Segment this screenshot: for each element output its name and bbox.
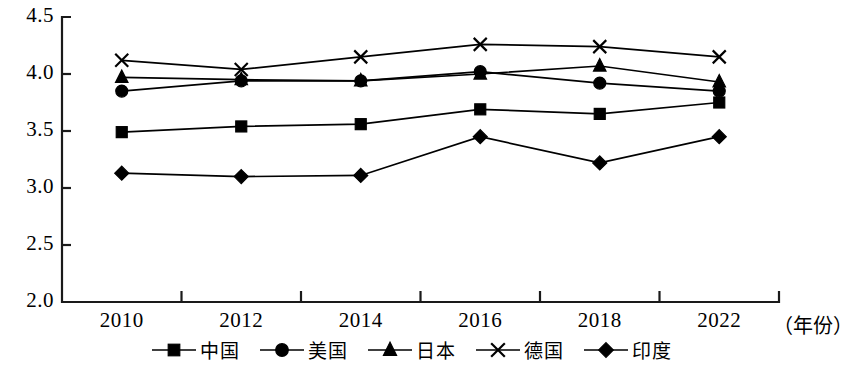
- data-point-日本-2018: [594, 59, 607, 71]
- y-tick-marks: [62, 74, 71, 245]
- x-axis-label-2018: 2018: [555, 308, 645, 333]
- x-axis-label-2016: 2016: [435, 308, 525, 333]
- legend-label-印度: 印度: [632, 336, 671, 363]
- data-point-日本-2010: [116, 70, 129, 82]
- y-axis-label-3.0: 3.0: [2, 174, 54, 199]
- legend-marker-diamond-icon: [583, 339, 629, 361]
- data-point-印度-2018: [593, 156, 607, 170]
- legend-label-日本: 日本: [416, 336, 455, 363]
- x-axis-label-2014: 2014: [316, 308, 406, 333]
- data-point-印度-2016: [473, 130, 487, 144]
- legend-label-中国: 中国: [200, 336, 239, 363]
- y-axis-label-4.0: 4.0: [2, 60, 54, 85]
- legend-item-印度[interactable]: 印度: [583, 336, 671, 363]
- legend-marker-triangle-icon: [367, 339, 413, 361]
- y-axis-label-3.5: 3.5: [2, 117, 54, 142]
- y-axis-label-4.5: 4.5: [2, 3, 54, 28]
- legend-item-美国[interactable]: 美国: [259, 336, 347, 363]
- data-point-中国-2022: [714, 97, 725, 108]
- data-point-中国-2018: [594, 108, 605, 119]
- series-中国: [116, 97, 725, 138]
- axes: [62, 17, 779, 302]
- legend-marker-square-icon: [151, 339, 197, 361]
- legend-item-中国[interactable]: 中国: [151, 336, 239, 363]
- series-line-印度: [122, 137, 720, 177]
- data-point-印度-2022: [712, 130, 726, 144]
- chart-legend: 中国美国日本德国印度: [0, 336, 822, 363]
- axis-frame: [62, 17, 779, 302]
- data-point-美国-2010: [116, 85, 128, 97]
- data-point-印度-2012: [234, 170, 248, 184]
- legend-marker-circle-icon: [259, 339, 305, 361]
- x-axis-title: （年份）: [773, 310, 844, 339]
- data-point-中国-2014: [355, 119, 366, 130]
- legend-marker-x-icon: [475, 339, 521, 361]
- data-point-中国-2010: [116, 127, 127, 138]
- series-layer: [115, 38, 727, 184]
- series-line-德国: [122, 44, 720, 69]
- y-axis-label-2.0: 2.0: [2, 288, 54, 313]
- data-point-美国-2018: [594, 77, 606, 89]
- series-line-日本: [122, 66, 720, 82]
- x-tick-marks: [182, 291, 660, 302]
- series-line-中国: [122, 103, 720, 133]
- data-point-印度-2010: [115, 166, 129, 180]
- data-point-中国-2016: [475, 104, 486, 115]
- data-point-印度-2014: [354, 168, 368, 182]
- legend-item-德国[interactable]: 德国: [475, 336, 563, 363]
- series-日本: [116, 59, 726, 87]
- legend-item-日本[interactable]: 日本: [367, 336, 455, 363]
- x-axis-label-2012: 2012: [196, 308, 286, 333]
- x-axis-label-2022: 2022: [674, 308, 764, 333]
- series-line-美国: [122, 72, 720, 91]
- x-axis-label-2010: 2010: [77, 308, 167, 333]
- series-印度: [115, 130, 727, 184]
- y-axis-label-2.5: 2.5: [2, 231, 54, 256]
- legend-label-美国: 美国: [308, 336, 347, 363]
- legend-label-德国: 德国: [524, 336, 563, 363]
- data-point-中国-2012: [236, 121, 247, 132]
